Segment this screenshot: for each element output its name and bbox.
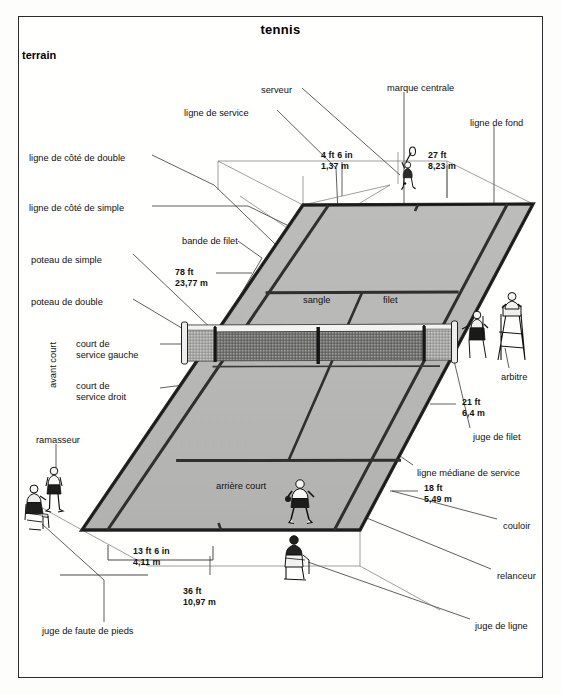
label-juge-de-filet: juge de filet	[473, 432, 521, 443]
label-court-de-service-droit: court de service droit	[76, 381, 126, 404]
dim-baseline-half-ft: 13 ft 6 in	[133, 546, 170, 557]
net-group	[182, 321, 458, 364]
label-bande-de-filet: bande de filet	[182, 236, 238, 247]
juge-de-faute-de-pieds-figure	[25, 485, 49, 530]
juge-de-ligne-figure	[284, 536, 309, 580]
dim-net-height-m: 1,37 m	[321, 161, 349, 172]
label-ligne-de-cote-de-simple: ligne de côté de simple	[29, 203, 124, 214]
dim-service-depth-m: 6,4 m	[462, 408, 485, 419]
label-court-de-service-gauche: court de service gauche	[76, 339, 139, 362]
dim-doubles-width-m: 10,97 m	[183, 597, 216, 608]
label-arbitre: arbitre	[501, 372, 527, 383]
label-ramasseur: ramasseur	[36, 435, 80, 446]
arbitre-figure	[498, 293, 525, 361]
label-ligne-de-cote-de-double: ligne de côté de double	[29, 153, 125, 164]
label-marque-centrale: marque centrale	[387, 83, 454, 94]
label-juge-de-faute-de-pieds: juge de faute de pieds	[42, 626, 134, 637]
serveur-figure	[402, 147, 416, 190]
label-poteau-de-simple: poteau de simple	[31, 255, 102, 266]
dim-doubles-width-ft: 36 ft	[183, 586, 202, 597]
label-sangle: sangle	[303, 295, 330, 306]
label-ligne-mediane-de-service: ligne médiane de service	[417, 468, 520, 479]
label-arriere-court: arrière court	[216, 481, 266, 492]
dim-service-depth-ft: 21 ft	[462, 397, 481, 408]
label-ligne-de-service: ligne de service	[184, 108, 249, 119]
label-ligne-de-fond: ligne de fond	[470, 118, 523, 129]
poteau-de-double-right	[452, 321, 458, 363]
label-poteau-de-double: poteau de double	[31, 297, 103, 308]
dim-net-height-ft: 4 ft 6 in	[321, 150, 353, 161]
dim-service-width-m: 5,49 m	[424, 494, 452, 505]
dim-court-length-ft: 78 ft	[175, 267, 194, 278]
figure-page: tennis terrain	[0, 0, 561, 694]
label-juge-de-ligne: juge de ligne	[475, 621, 528, 632]
dim-court-length-m: 23,77 m	[175, 278, 208, 289]
poteau-de-simple-right	[423, 326, 426, 361]
dim-baseline-half-m: 4,11 m	[133, 557, 161, 568]
dim-service-width-ft: 18 ft	[424, 483, 443, 494]
label-serveur: serveur	[261, 85, 292, 96]
poteau-de-double-left	[182, 322, 188, 364]
poteau-de-simple-left	[214, 327, 217, 362]
dim-court-width-m: 8,23 m	[428, 161, 456, 172]
dim-court-width-ft: 27 ft	[428, 150, 447, 161]
label-avant-court: avant court	[48, 342, 59, 388]
sangle	[317, 327, 320, 364]
label-relanceur: relanceur	[497, 571, 536, 582]
label-filet: filet	[383, 295, 397, 306]
ramasseur-figure	[46, 467, 63, 512]
label-couloir: couloir	[503, 521, 530, 532]
